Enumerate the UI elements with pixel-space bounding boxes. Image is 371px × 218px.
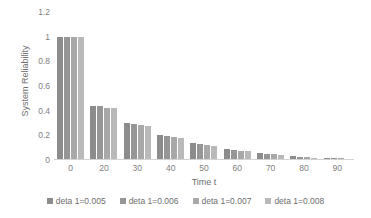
legend-item[interactable]: deta 1=0.007 [193, 196, 252, 206]
x-axis-tick-labels: 02030405060708090 [54, 162, 354, 176]
bar [211, 146, 217, 160]
legend-swatch-icon [193, 198, 199, 204]
x-axis-tick-label: 60 [221, 162, 254, 176]
x-axis-tick-label: 50 [187, 162, 220, 176]
bar [104, 108, 110, 160]
bar [71, 37, 77, 160]
bar-group [254, 12, 287, 160]
x-axis-tick-label: 20 [87, 162, 120, 176]
bar [204, 145, 210, 160]
y-axis-tick-label: 1.2 [26, 8, 50, 17]
bar-group [87, 12, 120, 160]
bar-group [121, 12, 154, 160]
legend-item-label: deta 1=0.006 [129, 196, 179, 206]
bar [145, 126, 151, 160]
y-axis-tick-label: 0.6 [26, 82, 50, 91]
y-axis-tick-label: 0 [26, 156, 50, 165]
bar [171, 137, 177, 160]
legend-item[interactable]: deta 1=0.008 [265, 196, 324, 206]
legend-swatch-icon [47, 198, 53, 204]
bar [78, 37, 84, 160]
bar [90, 106, 96, 160]
bar-chart: System Reliability 00.20.40.60.811.2 020… [0, 0, 371, 218]
y-axis-tick-label: 0.2 [26, 131, 50, 140]
bar [190, 143, 196, 160]
x-axis-tick-label: 70 [254, 162, 287, 176]
bar [111, 108, 117, 160]
bar [197, 144, 203, 160]
bar [164, 136, 170, 160]
bar [138, 125, 144, 160]
legend-item-label: deta 1=0.008 [274, 196, 324, 206]
bar [57, 37, 63, 160]
y-axis-tick-label: 1 [26, 32, 50, 41]
bar-group [154, 12, 187, 160]
legend-item-label: deta 1=0.007 [202, 196, 252, 206]
bar [157, 135, 163, 160]
bar-groups [54, 12, 354, 160]
x-axis-title: Time t [54, 176, 354, 188]
legend-item-label: deta 1=0.005 [56, 196, 106, 206]
y-axis-tick-label: 0.8 [26, 57, 50, 66]
chart-legend: deta 1=0.005deta 1=0.006deta 1=0.007deta… [0, 194, 371, 208]
x-axis-tick-label: 30 [121, 162, 154, 176]
bar-group [321, 12, 354, 160]
bar-group [187, 12, 220, 160]
x-axis-line [54, 159, 354, 160]
x-axis-tick-label: 0 [54, 162, 87, 176]
x-axis-tick-label: 80 [287, 162, 320, 176]
y-axis-tick-labels: 00.20.40.60.811.2 [26, 12, 50, 160]
plot-area [54, 12, 354, 160]
bar-group [54, 12, 87, 160]
bar [97, 106, 103, 160]
bar [178, 138, 184, 160]
bar-group [221, 12, 254, 160]
legend-item[interactable]: deta 1=0.006 [120, 196, 179, 206]
y-axis-tick-label: 0.4 [26, 106, 50, 115]
bar [64, 37, 70, 160]
x-axis-tick-label: 40 [154, 162, 187, 176]
legend-swatch-icon [120, 198, 126, 204]
bar [131, 124, 137, 160]
bar [124, 123, 130, 160]
legend-swatch-icon [265, 198, 271, 204]
x-axis-tick-label: 90 [321, 162, 354, 176]
legend-item[interactable]: deta 1=0.005 [47, 196, 106, 206]
bar-group [287, 12, 320, 160]
